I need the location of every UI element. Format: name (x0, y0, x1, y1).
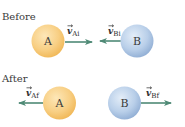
velocity-label-bi: vBi (108, 26, 121, 38)
ball-a-letter: A (43, 35, 53, 48)
after-ball-b: B (108, 87, 141, 120)
velocity-label-af: vAf (26, 88, 40, 100)
before-velocity-b: vBi (100, 25, 121, 41)
before-ball-a: A (32, 25, 65, 58)
after-ball-a: A (43, 87, 76, 120)
before-velocity-a: vAi (65, 25, 92, 42)
after-velocity-a: vAf (19, 87, 43, 103)
ball-b-letter: B (133, 35, 141, 48)
ball-b-letter: B (120, 97, 128, 110)
ball-a-letter: A (55, 97, 65, 110)
velocity-label-ai: vAi (67, 26, 80, 38)
diagram-canvas: A vAi vBi B vAf (0, 0, 185, 127)
before-ball-b: B (121, 25, 154, 58)
collision-diagram: Before After A vAi (0, 0, 185, 127)
velocity-label-bf: vBf (146, 88, 160, 100)
after-velocity-b: vBf (141, 87, 171, 103)
